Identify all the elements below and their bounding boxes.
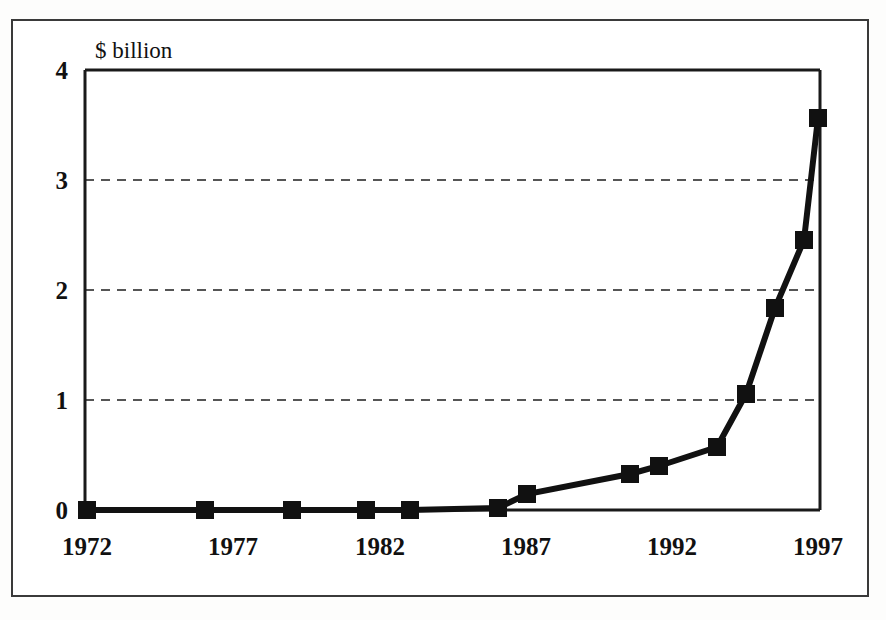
data-point-marker [78,501,96,519]
data-point-marker [621,465,639,483]
x-tick-1982: 1982 [355,533,405,560]
data-point-marker [283,501,301,519]
y-tick-1: 1 [56,387,69,414]
data-point-marker [766,299,784,317]
y-tick-2: 2 [56,277,69,304]
x-tick-1992: 1992 [647,533,697,560]
data-point-marker [196,501,214,519]
data-point-marker [708,438,726,456]
data-point-marker [489,499,507,517]
data-point-marker [650,457,668,475]
x-axis-labels: 1972 1977 1982 1987 1992 1997 [62,533,843,560]
data-markers [78,109,827,519]
unit-label: $ billion [95,38,173,63]
chart-figure: $ billion 4 3 2 1 0 1972 1977 1982 1987 … [0,0,886,620]
x-tick-1972: 1972 [62,533,112,560]
line-chart: $ billion 4 3 2 1 0 1972 1977 1982 1987 … [0,0,886,620]
y-tick-3: 3 [56,167,69,194]
x-tick-1977: 1977 [208,533,258,560]
data-point-marker [795,231,813,249]
gridlines [85,180,820,400]
data-point-marker [809,109,827,127]
data-point-marker [737,385,755,403]
y-tick-4: 4 [56,57,69,84]
y-axis-labels: 4 3 2 1 0 [56,57,69,524]
data-point-marker [401,501,419,519]
data-point-marker [357,501,375,519]
y-tick-0: 0 [56,497,69,524]
x-tick-1997: 1997 [793,533,843,560]
data-point-marker [518,485,536,503]
x-tick-1987: 1987 [501,533,551,560]
